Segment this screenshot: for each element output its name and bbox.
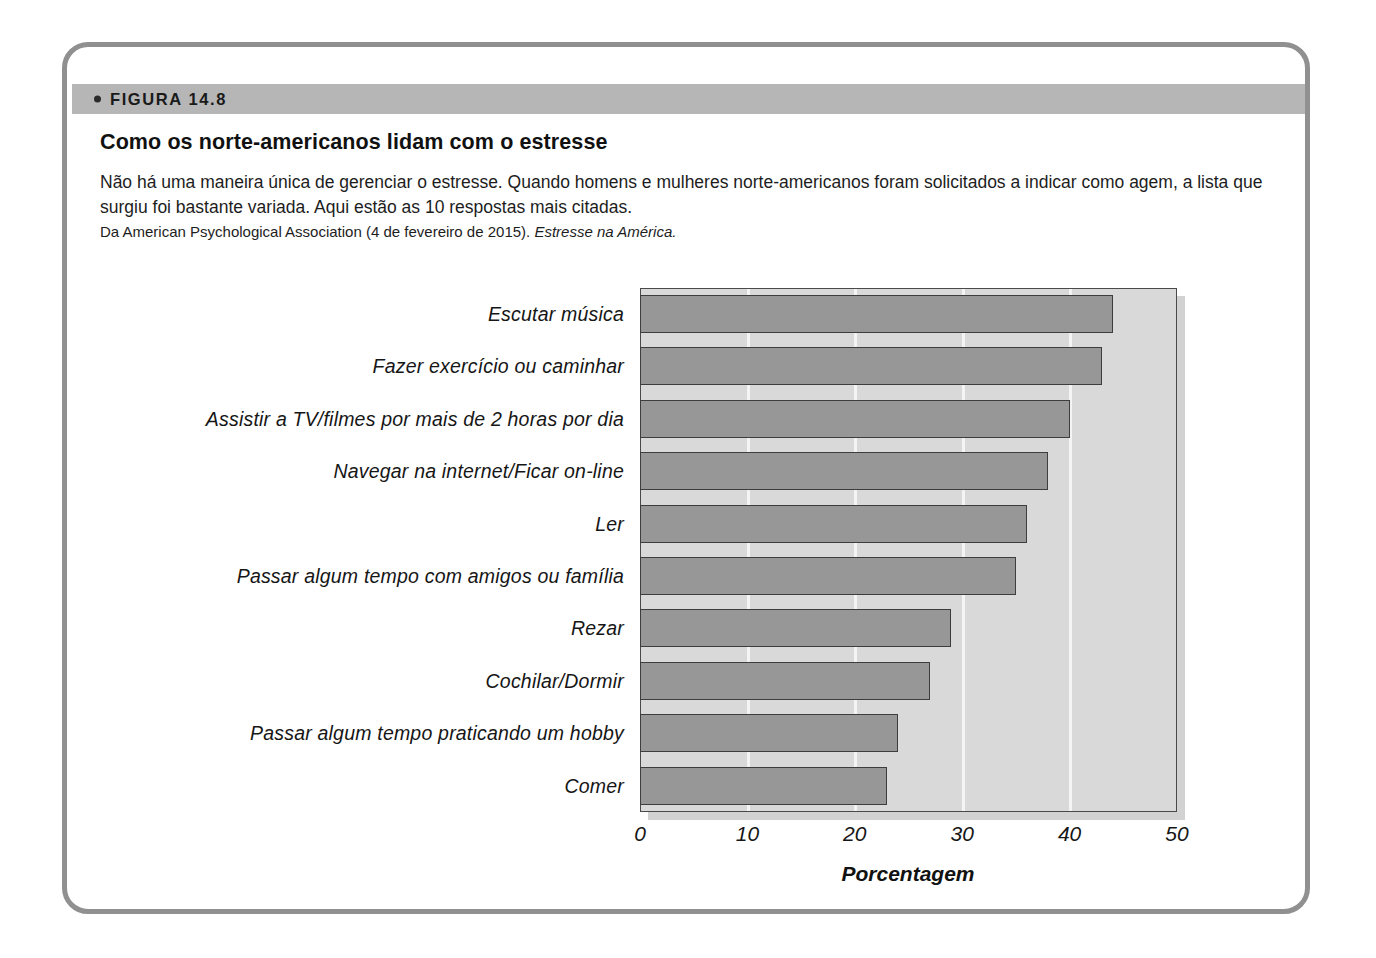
figure-number-label: FIGURA 14.8 [110,90,227,109]
figure-number-band: FIGURA 14.8 [72,84,1305,114]
figure-source: Da American Psychological Association (4… [100,222,1280,242]
figure-title: Como os norte-americanos lidam com o est… [100,130,608,155]
bullet-dot-icon [94,96,101,103]
figure-source-title: Estresse na América. [534,223,676,240]
figure-description: Não há uma maneira única de gerenciar o … [100,170,1280,219]
figure-source-prefix: Da American Psychological Association (4… [100,223,534,240]
